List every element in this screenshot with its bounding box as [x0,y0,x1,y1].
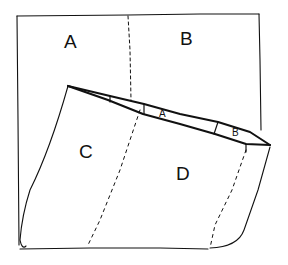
label-a-top: A [64,32,77,51]
diagram-canvas: A B C D A B [0,0,288,265]
label-roll-a: A [159,109,166,119]
label-roll-b: B [232,128,239,138]
sheet-drawing [0,0,288,265]
label-d: D [176,164,190,183]
label-c: C [79,142,93,161]
label-b-top: B [180,29,193,48]
